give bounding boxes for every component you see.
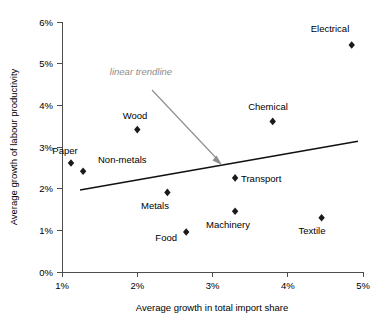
y-tick-label-0: 0% <box>39 267 53 278</box>
point-label-chemical: Chemical <box>248 101 288 112</box>
point-label-metals: Metals <box>141 200 169 211</box>
x-axis-ticks <box>62 272 363 277</box>
axes-group <box>57 22 363 277</box>
x-tick-label-3: 4% <box>281 280 295 291</box>
trendline-annotation-arrow <box>152 90 218 160</box>
data-point-metals[interactable]: Metals <box>141 189 171 211</box>
point-label-paper: Paper <box>52 145 77 156</box>
point-label-wood: Wood <box>123 110 148 121</box>
data-point-non-metals[interactable]: Non-metals <box>80 154 147 175</box>
marker-electrical <box>349 41 355 49</box>
marker-textile <box>318 214 324 222</box>
y-tick-label-4: 4% <box>39 100 53 111</box>
data-point-paper[interactable]: Paper <box>52 145 77 167</box>
data-point-electrical[interactable]: Electrical <box>311 23 355 49</box>
y-tick-label-1: 1% <box>39 225 53 236</box>
linear-trendline <box>80 141 358 190</box>
marker-chemical <box>270 118 276 126</box>
x-tick-label-4: 5% <box>356 280 370 291</box>
data-point-transport[interactable]: Transport <box>232 173 282 184</box>
y-tick-label-6: 6% <box>39 17 53 28</box>
data-point-food[interactable]: Food <box>155 228 189 243</box>
trendline-annotation-label: linear trendline <box>110 66 172 77</box>
x-tick-label-1: 2% <box>130 280 144 291</box>
trendline-annotation-arrowhead <box>213 156 223 166</box>
marker-paper <box>68 159 74 167</box>
point-label-food: Food <box>155 232 177 243</box>
x-tick-label-2: 3% <box>206 280 220 291</box>
point-label-electrical: Electrical <box>311 23 350 34</box>
marker-transport <box>232 174 238 182</box>
marker-non-metals <box>80 168 86 176</box>
point-label-transport: Transport <box>241 173 282 184</box>
data-point-textile[interactable]: Textile <box>299 214 326 236</box>
point-label-machinery: Machinery <box>206 219 250 230</box>
data-point-wood[interactable]: Wood <box>123 110 148 134</box>
x-tick-label-0: 1% <box>55 280 69 291</box>
x-axis-title: Average growth in total import share <box>136 302 288 313</box>
y-tick-label-5: 5% <box>39 58 53 69</box>
y-tick-label-2: 2% <box>39 183 53 194</box>
marker-wood <box>134 126 140 134</box>
data-points-group: Paper Non-metals Wood Metals Food Transp… <box>52 23 355 243</box>
y-axis-title: Average growth of labour productivity <box>8 68 19 225</box>
marker-metals <box>164 189 170 197</box>
data-point-machinery[interactable]: Machinery <box>206 207 250 230</box>
marker-food <box>183 228 189 236</box>
data-point-chemical[interactable]: Chemical <box>248 101 288 125</box>
point-label-textile: Textile <box>299 225 326 236</box>
scatter-chart: 0% 1% 2% 3% 4% 5% 6% 1% 2% 3% 4% 5% Aver… <box>0 0 375 323</box>
x-axis-tick-labels: 1% 2% 3% 4% 5% <box>55 280 370 291</box>
marker-machinery <box>232 207 238 215</box>
point-label-non-metals: Non-metals <box>98 154 147 165</box>
chart-canvas: 0% 1% 2% 3% 4% 5% 6% 1% 2% 3% 4% 5% Aver… <box>0 0 375 323</box>
